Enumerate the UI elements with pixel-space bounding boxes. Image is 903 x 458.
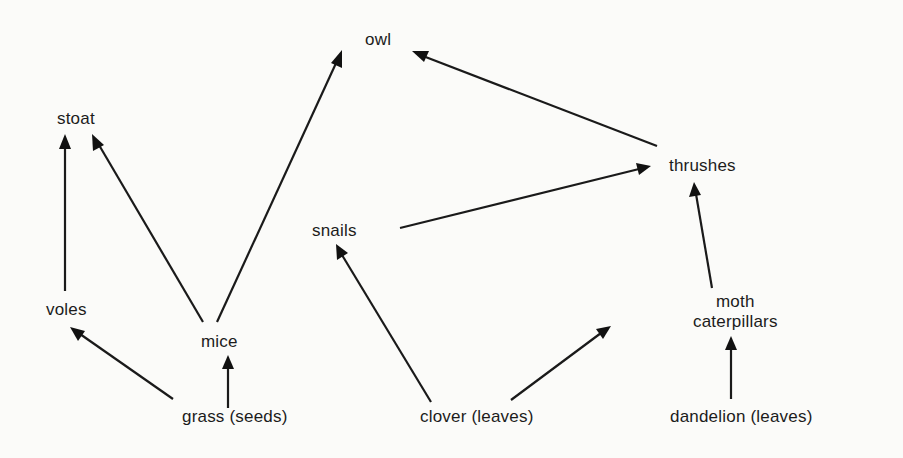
arrow-snails-to-thrushes [400, 163, 651, 228]
arrow-voles-to-stoat [59, 134, 71, 291]
node-mice: mice [201, 332, 238, 351]
arrow-clover-to-snails [336, 244, 431, 402]
arrow-mice-to-stoat [92, 134, 203, 322]
arrow-grass-to-mice [222, 355, 234, 408]
node-grass-seeds: grass (seeds) [182, 407, 288, 426]
node-owl: owl [365, 30, 391, 49]
edge-layer [0, 0, 903, 458]
node-voles: voles [46, 300, 87, 319]
food-web-diagram: owl stoat thrushes snails voles mice mot… [0, 0, 903, 458]
node-moth-caterpillars-line2: caterpillars [693, 312, 778, 332]
node-thrushes: thrushes [669, 156, 736, 175]
arrow-moth-caterpillars-to-thrushes [689, 182, 712, 288]
node-clover-leaves: clover (leaves) [420, 407, 534, 426]
arrow-dandelion-to-moth-caterpillars [725, 336, 737, 399]
node-dandelion-leaves: dandelion (leaves) [670, 407, 813, 426]
arrow-clover-to-moth-caterpillars [511, 326, 611, 400]
node-moth-caterpillars-line1: moth [693, 292, 778, 312]
node-snails: snails [312, 221, 357, 240]
node-moth-caterpillars: moth caterpillars [693, 292, 778, 332]
arrow-thrushes-to-owl [412, 51, 657, 146]
arrow-mice-to-owl [217, 50, 342, 322]
node-stoat: stoat [57, 109, 95, 128]
arrow-grass-to-voles [70, 327, 173, 399]
